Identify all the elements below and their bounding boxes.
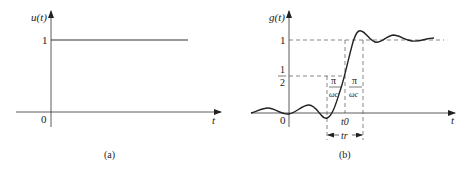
panel-b-origin-label: 0 xyxy=(280,114,286,126)
panel-a-caption: (a) xyxy=(104,149,115,161)
t0-label: t0 xyxy=(341,116,349,127)
panel-b: g(t) 1 1 2 π ωc π ωc 0 t0 t tr (b) xyxy=(251,11,455,161)
pi-left-denominator: ωc xyxy=(329,90,339,99)
panel-b-level-one-label: 1 xyxy=(280,34,286,46)
panel-b-caption: (b) xyxy=(339,149,351,161)
panel-a: u(t) 1 0 t (a) xyxy=(16,11,221,161)
step-response-diagram: u(t) 1 0 t (a) g(t) 1 1 2 π ωc π ωc 0 t0 xyxy=(0,0,469,171)
rise-time-label: tr xyxy=(341,130,348,141)
step-response-curve xyxy=(251,31,434,118)
panel-b-y-label: g(t) xyxy=(269,11,285,24)
pi-right-denominator: ωc xyxy=(349,90,359,99)
panel-b-x-label: t xyxy=(451,114,455,126)
pi-left-numerator: π xyxy=(331,75,336,86)
pi-right-numerator: π xyxy=(352,75,357,86)
panel-a-origin-label: 0 xyxy=(41,113,47,125)
panel-a-level-label: 1 xyxy=(42,34,48,46)
half-numerator: 1 xyxy=(280,64,285,75)
panel-a-y-label: u(t) xyxy=(31,11,47,24)
half-denominator: 2 xyxy=(280,77,285,88)
panel-a-x-label: t xyxy=(212,114,216,126)
